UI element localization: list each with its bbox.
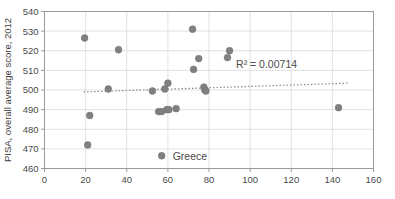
- x-tick-label: 100: [242, 174, 258, 185]
- x-tick-label: 120: [283, 174, 299, 185]
- y-tick-label: 500: [23, 84, 39, 95]
- x-tick-label: 140: [324, 174, 340, 185]
- data-point-marker: [149, 88, 156, 95]
- chart-canvas: 020406080100120140160 460470480490500510…: [0, 0, 395, 199]
- data-point-marker: [173, 105, 180, 112]
- data-point-marker: [189, 26, 196, 33]
- data-point-marker: [86, 112, 93, 119]
- data-point-marker: [166, 106, 173, 113]
- y-axis-title: PISA, overall average score, 2012: [2, 18, 13, 162]
- x-tick-label: 80: [204, 174, 215, 185]
- x-tick-label: 20: [80, 174, 91, 185]
- data-point-marker: [164, 80, 171, 87]
- data-point-marker: [84, 142, 91, 149]
- r-squared-label: R² = 0.00714: [236, 58, 297, 70]
- y-tick-label: 490: [23, 104, 39, 115]
- chart-legend[interactable]: Greece: [158, 150, 207, 162]
- data-point-marker: [81, 35, 88, 42]
- x-tick-label: 40: [121, 174, 132, 185]
- data-point-marker: [115, 46, 122, 53]
- y-axis-ticks: 460470480490500510520530540: [23, 6, 45, 174]
- data-point-marker: [203, 88, 210, 95]
- legend-label-greece[interactable]: Greece: [173, 150, 208, 162]
- data-point-marker: [105, 86, 112, 93]
- y-tick-label: 540: [23, 6, 39, 17]
- legend-marker-icon: [158, 152, 165, 159]
- data-points: [81, 26, 342, 149]
- x-axis-ticks: 020406080100120140160: [42, 169, 382, 185]
- y-tick-label: 480: [23, 124, 39, 135]
- x-tick-label: 160: [366, 174, 382, 185]
- data-point-marker: [226, 47, 233, 54]
- data-point-marker: [335, 104, 342, 111]
- scatter-chart: 020406080100120140160 460470480490500510…: [0, 0, 395, 199]
- y-tick-label: 520: [23, 45, 39, 56]
- trend-line-path: [84, 83, 349, 92]
- data-point-marker: [224, 54, 231, 61]
- x-tick-label: 60: [163, 174, 174, 185]
- y-tick-label: 510: [23, 65, 39, 76]
- data-point-marker: [195, 55, 202, 62]
- data-point-marker: [190, 66, 197, 73]
- r-squared-annotation: R² = 0.00714: [236, 58, 297, 70]
- y-tick-label: 530: [23, 26, 39, 37]
- x-tick-label: 0: [42, 174, 47, 185]
- trendline: [84, 83, 349, 92]
- y-tick-label: 470: [23, 143, 39, 154]
- y-tick-label: 460: [23, 163, 39, 174]
- y-axis-title-text: PISA, overall average score, 2012: [2, 18, 13, 162]
